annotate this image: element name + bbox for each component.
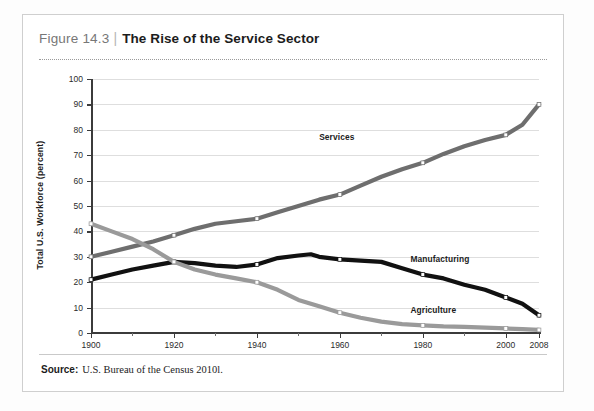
figure-frame: Figure 14.3|The Rise of the Service Sect… [22,14,564,392]
figure-page: Figure 14.3|The Rise of the Service Sect… [0,0,594,411]
data-marker [504,133,508,137]
series-line-services [91,104,539,256]
data-marker [255,280,259,284]
source-text: U.S. Bureau of the Census 2010l. [82,364,223,375]
data-marker [338,193,342,197]
figure-number: Figure 14.3 [39,31,110,46]
figure-header: Figure 14.3|The Rise of the Service Sect… [39,29,547,53]
series-label-services: Services [319,132,354,142]
series-label-manufacturing: Manufacturing [410,254,469,264]
footer-divider [39,354,547,355]
data-marker [338,257,342,261]
data-marker [89,222,93,226]
data-marker [172,233,176,237]
source-note: Source:U.S. Bureau of the Census 2010l. [41,364,223,375]
chart-canvas: Total U.S. Workforce (percent) 010203040… [39,67,549,359]
figure-separator: | [114,30,118,46]
data-marker [172,260,176,264]
data-marker [421,273,425,277]
title-divider [39,59,547,61]
data-marker [255,217,259,221]
data-marker [89,255,93,259]
data-marker [504,296,508,300]
data-marker [421,161,425,165]
data-marker [338,311,342,315]
data-marker [89,278,93,282]
data-marker [537,313,541,317]
data-marker [537,103,541,107]
series-layer [39,67,549,359]
data-marker [537,328,541,332]
series-label-agriculture: Agriculture [410,305,456,315]
figure-title: The Rise of the Service Sector [122,31,319,46]
data-marker [504,327,508,331]
data-marker [255,263,259,267]
data-marker [421,323,425,327]
source-prefix: Source: [41,364,78,375]
